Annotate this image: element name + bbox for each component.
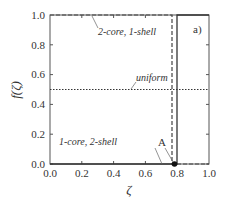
x-tick-4: 0.8: [170, 167, 184, 179]
point-a-marker: [172, 161, 178, 167]
x-tick-0: 0.0: [43, 167, 57, 179]
label-1-core-2-shell: 1-core, 2-shell: [59, 136, 117, 147]
label-point-a: A: [158, 136, 166, 148]
label-uniform: uniform: [136, 72, 168, 83]
x-axis-label: ζ: [126, 182, 132, 197]
chart: 0.0 0.2 0.4 0.6 0.8 1.0 0.0 0.2 0.4 0.6 …: [0, 0, 225, 205]
x-tick-1: 0.2: [75, 167, 89, 179]
x-tick-3: 0.6: [139, 167, 153, 179]
y-tick-4: 0.8: [31, 39, 45, 51]
y-tick-5: 1.0: [31, 9, 45, 21]
panel-label: a): [193, 23, 202, 36]
y-tick-1: 0.2: [31, 128, 45, 140]
y-axis-label: f(ζ): [8, 81, 23, 99]
y-tick-2: 0.4: [31, 98, 45, 110]
x-tick-2: 0.4: [107, 167, 121, 179]
y-tick-3: 0.6: [31, 68, 45, 80]
x-tick-5: 1.0: [202, 167, 216, 179]
label-2-core-1-shell: 2-core, 1-shell: [98, 26, 156, 37]
